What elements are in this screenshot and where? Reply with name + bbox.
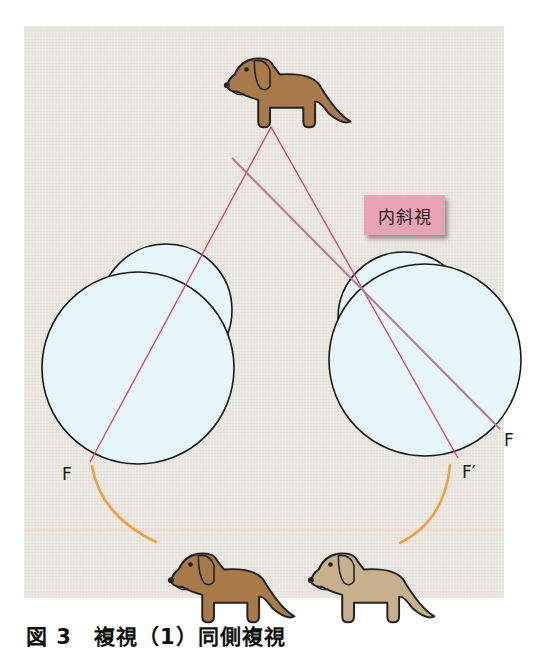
esotropia-label: 内斜視	[364, 195, 445, 235]
left-eye	[42, 244, 234, 464]
fovea-label-right: F	[504, 430, 514, 450]
figure-caption: 図 3 複視（1）同側複視	[26, 620, 286, 650]
fovea-label-left: F	[62, 464, 72, 484]
projection-arc-left	[92, 466, 156, 542]
image-dog-real	[168, 553, 294, 622]
image-dog-ghost	[308, 553, 434, 622]
object-dog	[224, 58, 350, 127]
false-fovea-label: F′	[462, 462, 476, 482]
projection-arc-right	[400, 465, 450, 543]
